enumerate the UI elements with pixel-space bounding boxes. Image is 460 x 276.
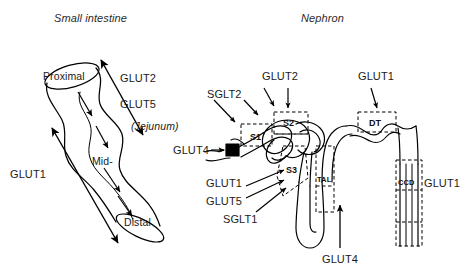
intestine-label-mid: Mid- bbox=[92, 155, 113, 167]
panel-title-nephron: Nephron bbox=[301, 12, 344, 24]
intestine-label-glut1: GLUT1 bbox=[10, 168, 46, 180]
nephron-label-glut2: GLUT2 bbox=[262, 70, 298, 82]
arrow-sglt2 bbox=[214, 100, 258, 122]
arrow-glut1-top bbox=[371, 88, 377, 108]
nephron-segment-label-s1: S1 bbox=[250, 131, 261, 143]
nephron-label-glut1-left: GLUT1 bbox=[206, 177, 242, 189]
nephron-segment-label-s3: S3 bbox=[286, 164, 297, 176]
nephron-label-glut4-left: GLUT4 bbox=[173, 144, 209, 156]
nephron-segment-label-tal: TAL bbox=[317, 174, 331, 186]
nephron-segment-label-s2: S2 bbox=[283, 117, 294, 129]
nephron-label-sglt2: SGLT2 bbox=[207, 88, 242, 100]
arrow-glut2-nephron bbox=[264, 88, 288, 108]
nephron-segment-label-ccd: CCD bbox=[398, 177, 415, 189]
panel-title-small-intestine: Small intestine bbox=[54, 12, 127, 24]
nephron-label-glut4-bottom: GLUT4 bbox=[322, 253, 358, 265]
nephron-label-glut1-right: GLUT1 bbox=[424, 177, 460, 189]
intestine-flow-arrows bbox=[78, 92, 132, 216]
intestine-label-glut2: GLUT2 bbox=[120, 72, 156, 84]
intestine-label-proximal: Proximal bbox=[43, 70, 85, 82]
intestine-label-distal: Distal bbox=[124, 216, 151, 228]
arrow-s3-cluster bbox=[246, 170, 286, 212]
nephron-label-glut1-top: GLUT1 bbox=[358, 70, 394, 82]
nephron-label-sglt1-left: SGLT1 bbox=[223, 213, 258, 225]
nephron-segment-label-dt: DT bbox=[369, 117, 381, 129]
intestine-label-glut5: GLUT5 bbox=[120, 98, 156, 110]
intestine-label-jejunum: (Jejunum) bbox=[131, 120, 179, 132]
intestine-gradient-arrow-left bbox=[52, 128, 118, 243]
nephron-label-glut5-left: GLUT5 bbox=[206, 195, 242, 207]
